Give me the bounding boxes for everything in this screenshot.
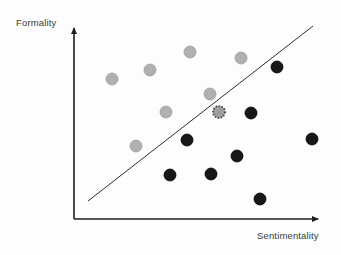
data-point-gray-class (144, 64, 156, 76)
data-point-gray-class (204, 88, 216, 100)
scatter-plot-figure: Formality Sentimentality (0, 0, 341, 255)
data-point-gray-class (184, 46, 196, 58)
y-axis-label: Formality (16, 18, 56, 28)
data-point-gray-class (160, 106, 172, 118)
data-point-black-class (181, 134, 193, 146)
x-axis-label: Sentimentality (257, 231, 319, 241)
data-point-black-class (245, 107, 257, 119)
data-point-black-class (271, 61, 283, 73)
data-points-group (106, 46, 318, 205)
data-point-gray-class (106, 73, 118, 85)
data-point-highlighted-point (213, 106, 225, 118)
separating-line (88, 26, 313, 201)
data-point-black-class (164, 169, 176, 181)
data-point-gray-class (130, 140, 142, 152)
data-point-black-class (231, 150, 243, 162)
data-point-black-class (254, 193, 266, 205)
data-point-black-class (306, 133, 318, 145)
plot-canvas (0, 0, 341, 255)
axes-group (74, 28, 318, 219)
decision-boundary-line (88, 26, 313, 201)
data-point-black-class (205, 168, 217, 180)
data-point-gray-class (235, 52, 247, 64)
